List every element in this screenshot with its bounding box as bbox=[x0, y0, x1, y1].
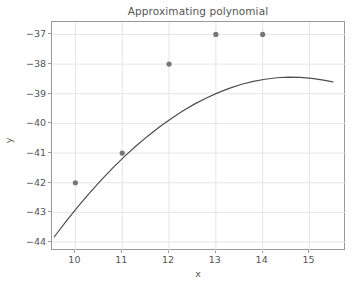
plot-canvas bbox=[52, 22, 346, 251]
y-tick-label: −38 bbox=[26, 58, 46, 69]
y-tick-label: −37 bbox=[26, 28, 46, 39]
x-tick-label: 12 bbox=[162, 254, 174, 265]
y-tick-label: −40 bbox=[26, 117, 46, 128]
data-point-marker bbox=[260, 32, 265, 37]
x-tick-label: 13 bbox=[209, 254, 221, 265]
data-point-marker bbox=[120, 151, 125, 156]
x-tick-label: 15 bbox=[302, 254, 314, 265]
plot-area bbox=[51, 21, 345, 250]
y-tick-label: −42 bbox=[26, 176, 46, 187]
data-point-marker bbox=[73, 180, 78, 185]
y-tick-label: −39 bbox=[26, 87, 46, 98]
x-tick-label: 10 bbox=[68, 254, 80, 265]
y-tick-label: −41 bbox=[26, 147, 46, 158]
chart-title: Approximating polynomial bbox=[51, 5, 345, 17]
x-tick-label: 14 bbox=[256, 254, 268, 265]
y-axis-label: y bbox=[3, 138, 14, 144]
grid-lines bbox=[52, 22, 346, 251]
y-tick-label: −44 bbox=[26, 236, 46, 247]
y-tick-label: −43 bbox=[26, 206, 46, 217]
data-point-marker bbox=[213, 32, 218, 37]
data-point-marker bbox=[166, 62, 171, 67]
x-axis-label: x bbox=[51, 268, 345, 279]
x-tick-label: 11 bbox=[115, 254, 127, 265]
chart-figure: Approximating polynomial y x −37−38−39−4… bbox=[0, 0, 359, 288]
